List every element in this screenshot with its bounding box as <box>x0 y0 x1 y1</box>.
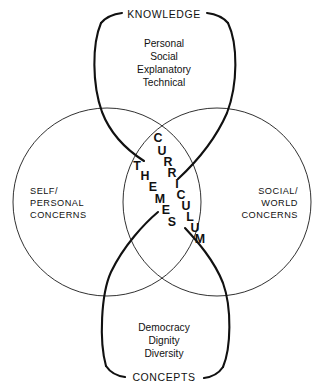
curriculum-word: CURRICULUM <box>154 131 206 246</box>
knowledge-item-1: Social <box>150 51 178 62</box>
knowledge-loop-top-right-cap <box>207 13 228 23</box>
self-personal-label-line-0: SELF/ <box>30 186 58 196</box>
curriculum-letter-0: C <box>154 131 163 145</box>
concepts-item-2: Diversity <box>144 348 184 359</box>
knowledge-item-3: Technical <box>143 77 185 88</box>
themes-letter-5: S <box>168 215 176 229</box>
venn-diagram-svg: KNOWLEDGE Personal Social Explanatory Te… <box>0 0 326 391</box>
knowledge-item-0: Personal <box>144 38 184 49</box>
knowledge-loop-top-left-cap <box>101 13 122 23</box>
knowledge-loop-right-stroke <box>178 23 235 179</box>
concepts-loop-right-stroke <box>185 228 229 367</box>
curriculum-letter-9: M <box>195 232 205 246</box>
concepts-item-0: Democracy <box>138 322 190 333</box>
social-world-label-line-2: CONCERNS <box>241 210 298 220</box>
social-world-label-line-1: WORLD <box>261 198 298 208</box>
self-personal-label-line-2: CONCERNS <box>30 210 87 220</box>
knowledge-label: KNOWLEDGE <box>127 8 201 20</box>
concepts-loop-bottom-right-cap <box>204 367 223 378</box>
knowledge-loop-left-stroke <box>94 23 144 161</box>
curriculum-venn-diagram: KNOWLEDGE Personal Social Explanatory Te… <box>0 0 326 391</box>
concepts-item-1: Dignity <box>148 335 180 346</box>
knowledge-item-2: Explanatory <box>137 64 192 75</box>
self-personal-label-line-1: PERSONAL <box>30 198 84 208</box>
concepts-label: CONCEPTS <box>132 371 195 383</box>
concepts-loop-bottom-left-cap <box>106 366 125 377</box>
social-world-label-line-0: SOCIAL/ <box>258 186 298 196</box>
